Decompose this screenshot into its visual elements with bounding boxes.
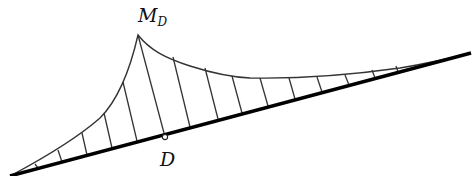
point-d-label: D [160, 148, 175, 170]
moment-diagram-svg [0, 0, 474, 176]
hatch-lines [35, 35, 398, 168]
moment-curve [12, 35, 470, 175]
peak-moment-label: MD [138, 4, 167, 29]
point-d-marker [162, 134, 167, 139]
beam-baseline [10, 53, 471, 176]
